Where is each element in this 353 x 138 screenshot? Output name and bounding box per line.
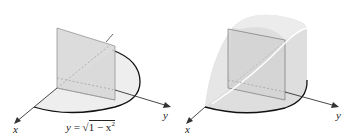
- left-x-label: x: [13, 124, 18, 135]
- left-z-axis: [106, 34, 113, 42]
- right-panel: [186, 15, 339, 124]
- equation-exponent: 2: [111, 120, 115, 128]
- left-y-label: y: [163, 110, 168, 121]
- right-y-arrow-icon: [331, 102, 339, 108]
- diagram-canvas: [0, 0, 353, 138]
- left-equation: y = √1 − x2: [66, 121, 115, 133]
- right-y-label: y: [336, 110, 341, 121]
- left-panel: [14, 28, 171, 124]
- left-y-arrow-icon: [163, 102, 171, 108]
- right-x-label: x: [185, 124, 190, 135]
- left-square-plane: [57, 28, 115, 100]
- equation-lhs: y: [66, 121, 71, 133]
- equation-radicand: 1 − x2: [89, 120, 115, 133]
- equation-equals: =: [74, 121, 80, 133]
